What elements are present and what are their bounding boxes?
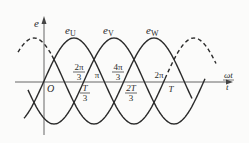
svg-text:3: 3 xyxy=(83,93,88,103)
tick-4pi-over-3: 4π 3 xyxy=(112,62,124,82)
tick-2pi: 2π xyxy=(154,70,164,80)
waveform-plot: e O ωt t eU eV eW 2π 3 π 4π 3 2π T 3 2T xyxy=(0,0,249,143)
curve-label-eU: eU xyxy=(65,24,76,38)
curve-label-eW: eW xyxy=(146,24,159,38)
tick-T-over-3: T 3 xyxy=(80,83,90,103)
x-axis-label-omega-t: ωt xyxy=(224,70,233,80)
tick-2T-over-3: 2T 3 xyxy=(125,83,137,103)
y-axis-arrow-icon xyxy=(42,16,47,24)
svg-text:4π: 4π xyxy=(113,62,123,72)
svg-text:2π: 2π xyxy=(74,62,84,72)
curve-eW-dashed xyxy=(18,38,52,56)
svg-text:3: 3 xyxy=(77,72,82,82)
curve-eW xyxy=(52,38,192,124)
curve-eU-lead xyxy=(24,81,44,118)
curve-label-eV: eV xyxy=(103,24,114,38)
origin-label: O xyxy=(47,83,54,94)
tick-2pi-over-3: 2π 3 xyxy=(73,62,85,82)
curve-eU xyxy=(44,38,165,124)
three-phase-waveform-diagram: e O ωt t eU eV eW 2π 3 π 4π 3 2π T 3 2T xyxy=(0,0,249,143)
svg-text:2T: 2T xyxy=(126,83,137,93)
svg-text:T: T xyxy=(82,83,88,93)
tick-T: T xyxy=(168,84,174,94)
y-axis-label: e xyxy=(34,17,39,29)
svg-text:3: 3 xyxy=(116,72,121,82)
tick-pi: π xyxy=(95,70,100,80)
svg-text:3: 3 xyxy=(129,93,134,103)
